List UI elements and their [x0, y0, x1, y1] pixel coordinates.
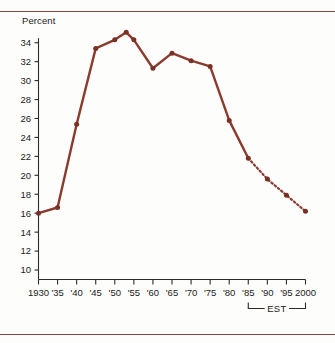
data-point-marker: [93, 46, 98, 51]
y-tick-label: 20: [20, 170, 31, 181]
line-chart-plot: 10121416182022242628303234 1930'35'40'45…: [0, 0, 335, 343]
data-point-marker: [189, 58, 194, 63]
y-tick-label: 16: [20, 208, 31, 219]
x-tick-label: '75: [204, 287, 216, 298]
data-point-marker: [112, 37, 117, 42]
y-tick-label: 22: [20, 151, 31, 162]
y-tick-label: 26: [20, 113, 31, 124]
x-tick-label: '80: [223, 287, 235, 298]
x-tick-label: '55: [128, 287, 140, 298]
x-tick-label: 2000: [295, 287, 316, 298]
y-tick-label: 34: [20, 37, 31, 48]
data-point-marker: [170, 51, 175, 56]
y-tick-label: 12: [20, 245, 31, 256]
x-tick-label: '95: [280, 287, 292, 298]
data-point-markers: [36, 30, 308, 216]
data-point-marker: [150, 66, 155, 71]
est-label: EST: [267, 303, 286, 314]
x-tick-label: '40: [70, 287, 82, 298]
data-point-marker: [284, 193, 289, 198]
y-tick-label: 10: [20, 264, 31, 275]
x-tick-label: '45: [90, 287, 102, 298]
data-point-marker: [36, 211, 41, 216]
data-point-marker: [74, 122, 79, 127]
data-line-estimated: [248, 158, 305, 211]
y-tick-label: 30: [20, 75, 31, 86]
data-point-marker: [227, 118, 232, 123]
data-point-marker: [265, 177, 270, 182]
data-line-actual: [39, 32, 249, 213]
x-tick-label: '85: [242, 287, 254, 298]
data-point-marker: [55, 205, 60, 210]
x-tick-label: 1930: [28, 287, 49, 298]
data-point-marker: [124, 30, 129, 35]
data-point-marker: [246, 156, 251, 161]
y-tick-label: 24: [20, 132, 31, 143]
data-point-marker: [208, 64, 213, 69]
y-axis-tick-group: 10121416182022242628303234: [20, 37, 38, 275]
x-tick-label: '70: [185, 287, 197, 298]
x-tick-label: '60: [147, 287, 159, 298]
x-tick-label: '35: [51, 287, 63, 298]
y-tick-label: 14: [20, 227, 31, 238]
data-point-marker: [131, 37, 136, 42]
y-tick-label: 18: [20, 189, 31, 200]
x-tick-label: '50: [109, 287, 121, 298]
chart-figure: Percent 10121416182022242628303234 1930'…: [0, 0, 335, 343]
y-tick-label: 32: [20, 56, 31, 67]
x-tick-label: '65: [166, 287, 178, 298]
x-axis-tick-group: 1930'35'40'45'50'55'60'65'70'75'80'85'90…: [28, 280, 316, 298]
data-point-marker: [303, 209, 308, 214]
y-tick-label: 28: [20, 94, 31, 105]
x-tick-label: '90: [261, 287, 273, 298]
